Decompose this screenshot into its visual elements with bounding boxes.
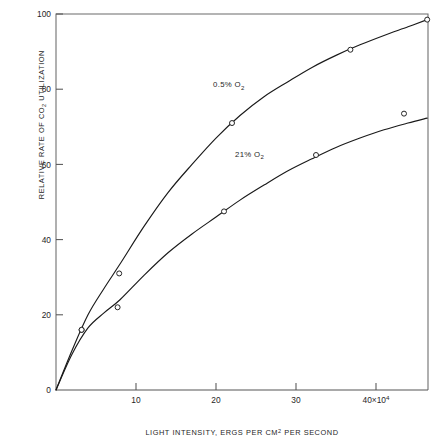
x-axis-title-pre: LIGHT INTENSITY, ERGS PER CM	[145, 428, 278, 437]
figure-container: 020406080100 10203040×104 0.5% O221% O2 …	[0, 0, 443, 448]
data-point-marker	[314, 153, 319, 158]
series-inline-labels: 0.5% O221% O2	[213, 80, 264, 160]
x-axis-tick-labels: 10203040×104	[131, 394, 390, 405]
data-point-marker	[79, 327, 84, 332]
y-tick-label: 20	[42, 310, 52, 320]
data-point-marker	[222, 209, 227, 214]
y-axis-title-pre: RELATIVE RATE OF CO	[37, 107, 46, 199]
data-point-marker	[230, 121, 235, 126]
y-tick-label: 0	[46, 385, 51, 395]
series-label-1: 0.5% O2	[213, 80, 245, 90]
chart-canvas: 020406080100 10203040×104 0.5% O221% O2	[0, 0, 443, 448]
y-axis-title-post: UTILIZATION	[37, 50, 46, 103]
series-label-2: 21% O2	[235, 150, 264, 160]
x-tick-label: 20	[211, 395, 221, 405]
data-point-marker	[117, 271, 122, 276]
y-axis-title-sub: 2	[41, 103, 47, 107]
x-axis-title-post: PER SECOND	[282, 428, 339, 437]
x-axis-ticks	[136, 383, 376, 390]
series-curves	[56, 20, 427, 390]
plot-frame	[56, 14, 428, 390]
y-axis-ticks	[56, 14, 63, 315]
data-point-marker	[115, 305, 120, 310]
x-axis-title: LIGHT INTENSITY, ERGS PER CM2 PER SECOND	[56, 428, 428, 437]
series-line-2	[56, 118, 427, 390]
data-point-marker	[402, 111, 407, 116]
data-point-marker	[425, 17, 430, 22]
x-tick-label: 10	[131, 395, 141, 405]
x-tick-label: 30	[291, 395, 301, 405]
data-point-marker	[348, 47, 353, 52]
x-tick-label: 40×104	[363, 394, 391, 405]
y-axis-title: RELATIVE RATE OF CO2 UTILIZATION	[37, 0, 46, 255]
series-line-1	[56, 20, 427, 390]
series-markers	[79, 17, 430, 332]
